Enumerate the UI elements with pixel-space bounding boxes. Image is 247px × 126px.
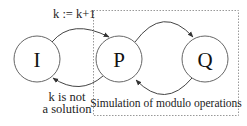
edge-i-to-p-arrow	[52, 29, 109, 42]
edge-i-to-p-label: k := k+1	[53, 7, 96, 21]
edge-p-to-q-arrow	[135, 22, 193, 42]
edge-p-to-i-label-line2: a solution	[43, 102, 93, 116]
group-caption: Simulation of modulo operations	[90, 97, 242, 110]
edge-q-to-p-arrow	[136, 78, 192, 95]
node-i-label: I	[34, 48, 41, 72]
node-q-label: Q	[197, 48, 212, 72]
node-q: Q	[182, 36, 228, 82]
node-p: P	[96, 36, 142, 82]
node-p-label: P	[113, 48, 125, 72]
node-i: I	[14, 36, 60, 82]
diagram-canvas: I P Q k := k+1 k is not a solution Simul…	[0, 0, 247, 126]
edge-p-to-i-arrow	[53, 76, 103, 87]
